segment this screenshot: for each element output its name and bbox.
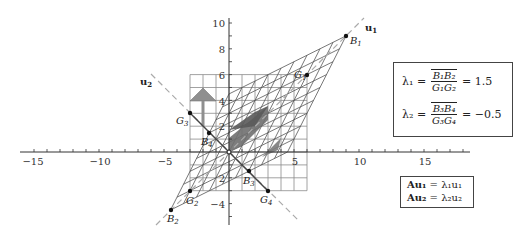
eq1-rhs: λ₁u₁	[441, 179, 462, 190]
y-tick-label: 6	[219, 70, 225, 81]
point-G2	[188, 189, 192, 193]
point-B2	[169, 208, 173, 212]
eq2-rhs: λ₂u₂	[441, 192, 462, 203]
point-B4	[207, 131, 211, 135]
lambda2-value: = −0.5	[462, 108, 501, 121]
lambda1-equation: λ₁ = B₁B₂ G₁G₂ = 1.5	[402, 69, 492, 93]
lambda2-lhs: λ₂ =	[402, 108, 426, 121]
label-u1: u1	[365, 22, 377, 35]
eigen-equation-2: Au₂ = λ₂u₂	[407, 192, 462, 203]
point-B1	[344, 34, 348, 38]
y-tick-label: 8	[219, 44, 225, 55]
x-tick-label: 5	[292, 156, 298, 167]
lambda2-equation: λ₂ = B₃B₄ G₃G₄ = −0.5	[402, 102, 502, 126]
lambda1-numerator: B₁B₂	[431, 69, 458, 82]
y-tick-label: 4	[219, 96, 225, 107]
eq2-equals: =	[426, 192, 441, 203]
lambda2-denominator: G₃G₄	[430, 115, 458, 126]
x-tick-label: −10	[89, 156, 110, 167]
y-tick-label: 2	[219, 173, 225, 184]
y-tick-label: 2	[219, 121, 225, 132]
y-tick-label: −4	[210, 199, 225, 210]
lambda2-numerator: B₃B₄	[431, 102, 458, 115]
original-arrow-shape	[190, 88, 216, 126]
eigen-equation-1: Au₁ = λ₁u₁	[407, 179, 462, 190]
x-tick-label: −5	[158, 156, 173, 167]
x-tick-label: −15	[22, 156, 43, 167]
point-G4	[266, 189, 270, 193]
eq1-lhs: Au₁	[407, 179, 426, 190]
label-B2: B2	[166, 213, 179, 226]
lambda1-fraction: B₁B₂ G₁G₂	[430, 69, 458, 93]
lambda1-denominator: G₁G₂	[430, 82, 458, 93]
origin-point	[227, 150, 231, 154]
eq1-equals: =	[426, 179, 441, 190]
lambda1-lhs: λ₁ =	[402, 75, 426, 88]
y-tick-label: 10	[212, 18, 225, 29]
x-axis	[20, 149, 470, 152]
lambda2-fraction: B₃B₄ G₃G₄	[430, 102, 458, 126]
label-G4: G4	[260, 194, 272, 207]
label-B1: B1	[349, 35, 362, 48]
x-tick-label: 10	[354, 156, 367, 167]
label-G3: G3	[176, 115, 189, 128]
x-tick-label: 15	[419, 156, 432, 167]
lambda1-value: = 1.5	[462, 75, 492, 88]
point-B3	[247, 169, 251, 173]
label-u2: u2	[140, 76, 152, 89]
eigenvalue-ratio-box: λ₁ = B₁B₂ G₁G₂ = 1.5 λ₂ = B₃B₄ G₃G₄ = −0…	[393, 62, 513, 137]
eq2-lhs: Au₂	[407, 192, 426, 203]
eigen-equation-box: Au₁ = λ₁u₁ Au₂ = λ₂u₂	[400, 176, 474, 208]
point-G3	[188, 111, 192, 115]
